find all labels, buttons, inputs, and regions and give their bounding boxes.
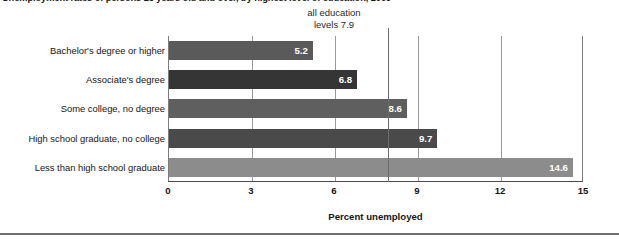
x-tick-label: 3 [231, 185, 271, 196]
reference-line-annotation: all education levels 7.9 [279, 7, 389, 30]
category-label: High school graduate, no college [3, 129, 165, 148]
bar-row: 6.8 [169, 65, 584, 94]
category-label: Some college, no degree [3, 99, 165, 118]
chart-figure: Unemployment rates of persons 25 years o… [0, 0, 619, 241]
category-label: Bachelor's degree or higher [3, 41, 165, 60]
bar-value-label: 8.6 [169, 99, 407, 118]
bar-value-label: 5.2 [169, 41, 313, 60]
x-axis-line [168, 181, 583, 182]
bottom-divider [0, 233, 619, 235]
reference-line [388, 28, 389, 182]
x-tick-label: 0 [148, 185, 188, 196]
category-label: Associate's degree [3, 70, 165, 89]
x-tick-label: 12 [480, 185, 520, 196]
category-axis-labels: Bachelor's degree or higherAssociate's d… [0, 36, 165, 182]
annotation-line-2: levels 7.9 [279, 19, 389, 31]
bar-row: 9.7 [169, 124, 584, 153]
bar-value-label: 14.6 [169, 158, 573, 177]
bar-row: 8.6 [169, 94, 584, 123]
x-tick-label: 15 [563, 185, 603, 196]
bar-value-label: 6.8 [169, 70, 357, 89]
x-axis-title: Percent unemployed [168, 211, 583, 222]
plot-area: 5.26.88.69.714.6 [168, 36, 583, 182]
annotation-line-1: all education [279, 7, 389, 19]
bar-row: 5.2 [169, 36, 584, 65]
chart-title: Unemployment rates of persons 25 years o… [2, 0, 602, 4]
bar-value-label: 9.7 [169, 129, 437, 148]
bar-row: 14.6 [169, 153, 584, 182]
category-label: Less than high school graduate [3, 158, 165, 177]
x-tick-label: 6 [314, 185, 354, 196]
x-tick-label: 9 [397, 185, 437, 196]
